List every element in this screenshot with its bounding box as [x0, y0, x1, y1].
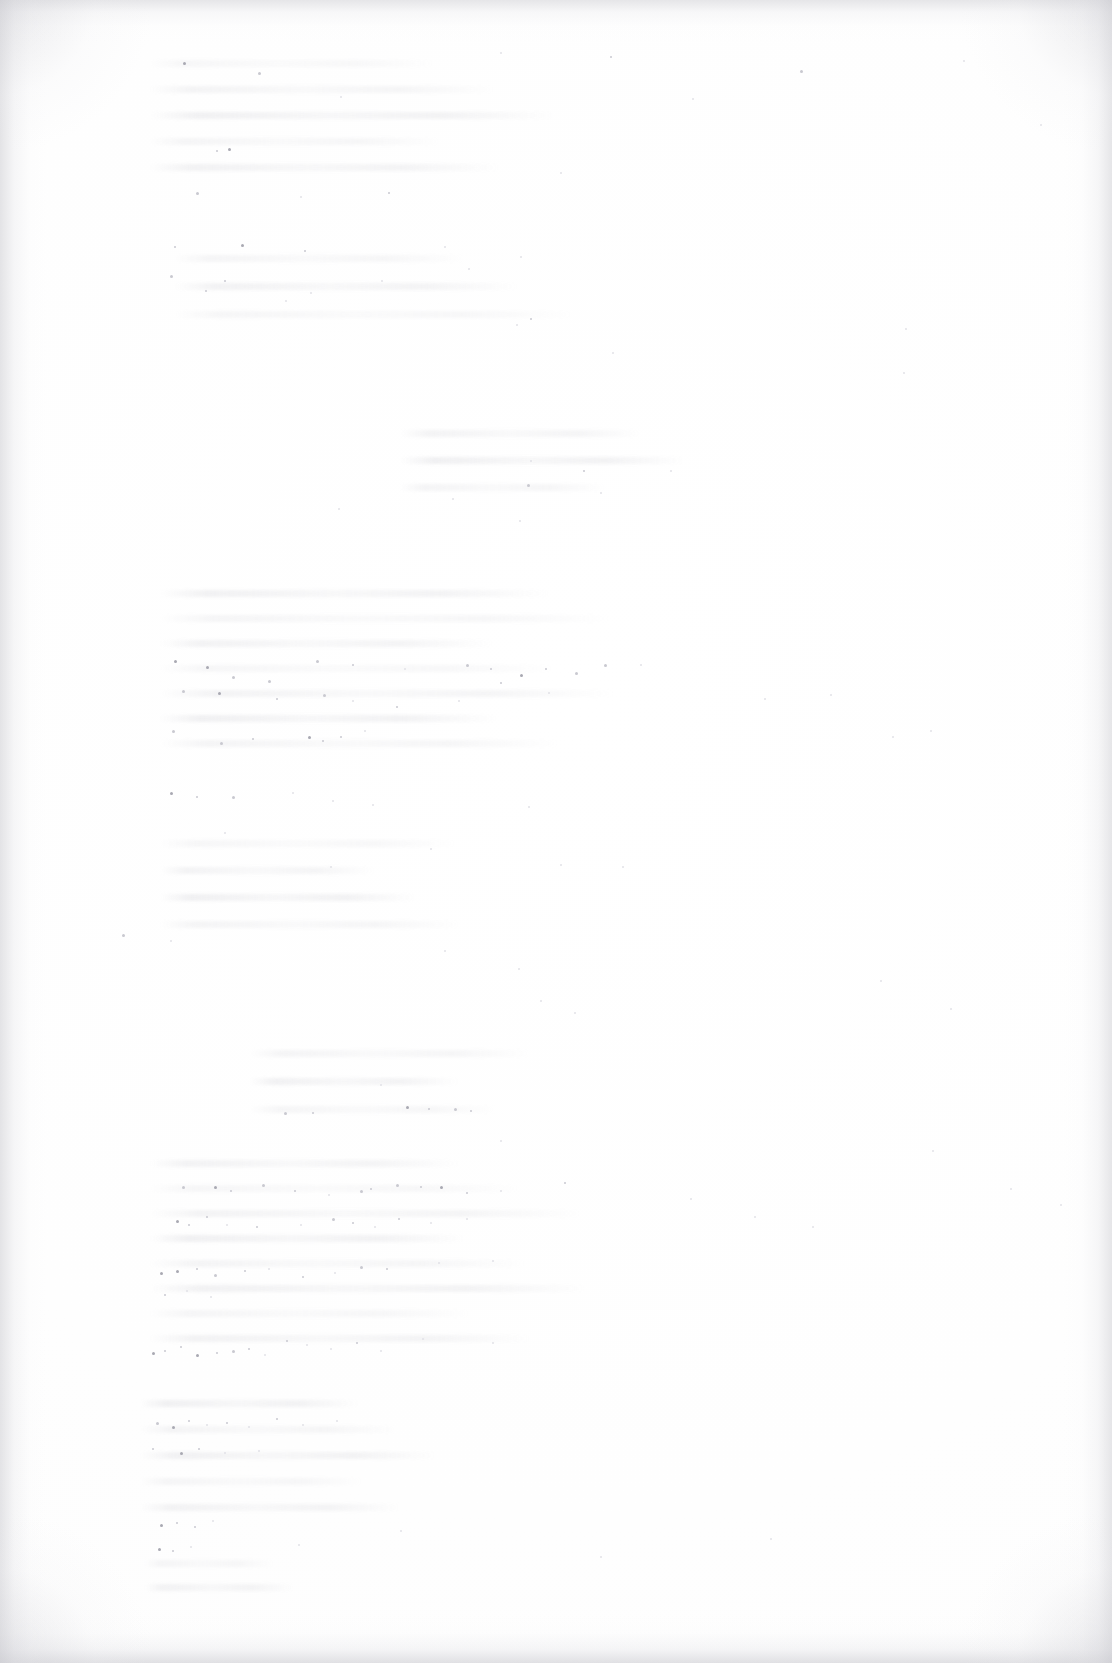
paper-background [0, 0, 1112, 1663]
scanned-page [0, 0, 1112, 1663]
